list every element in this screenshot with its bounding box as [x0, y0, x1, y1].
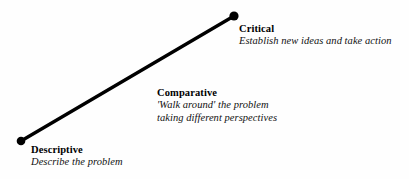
- stage-title-descriptive: Descriptive: [31, 144, 123, 156]
- endpoint-dot-critical: [229, 11, 238, 20]
- stage-description-line: Describe the problem: [31, 156, 123, 168]
- thinking-levels-diagram: Critical Establish new ideas and take ac…: [0, 0, 409, 179]
- stage-title-critical: Critical: [239, 23, 392, 35]
- stage-description-descriptive: Describe the problem: [31, 156, 123, 168]
- stage-description-comparative: 'Walk around' the problem taking differe…: [157, 99, 277, 124]
- stage-title-comparative: Comparative: [157, 87, 277, 99]
- stage-description-line: taking different perspectives: [157, 112, 277, 124]
- stage-label-comparative: Comparative 'Walk around' the problem ta…: [157, 87, 277, 124]
- endpoint-dot-descriptive: [17, 137, 26, 146]
- stage-description-line: 'Walk around' the problem: [157, 99, 277, 111]
- stage-description-line: Establish new ideas and take action: [239, 35, 392, 47]
- stage-description-critical: Establish new ideas and take action: [239, 35, 392, 47]
- stage-label-descriptive: Descriptive Describe the problem: [31, 144, 123, 169]
- stage-label-critical: Critical Establish new ideas and take ac…: [239, 23, 392, 48]
